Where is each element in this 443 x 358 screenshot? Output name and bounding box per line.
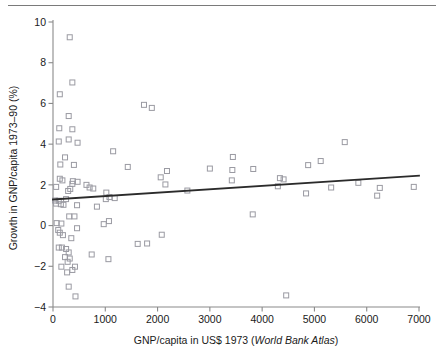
data-point-marker (149, 105, 154, 110)
data-point-marker (145, 241, 150, 246)
data-point-marker (101, 222, 106, 227)
data-point-marker (67, 35, 72, 40)
y-axis (49, 20, 54, 307)
x-axis (53, 307, 420, 312)
data-point-marker (304, 191, 309, 196)
data-point-marker (57, 92, 62, 97)
y-tick-label: 0 (40, 219, 46, 231)
data-point-marker (66, 137, 71, 142)
x-tick-label: 2000 (146, 313, 170, 325)
data-point-marker (72, 214, 77, 219)
y-tick-label: 6 (40, 97, 46, 109)
data-point-marker (57, 126, 62, 131)
data-point-marker (63, 155, 68, 160)
data-point-marker (70, 80, 75, 85)
data-point-marker (54, 184, 59, 189)
data-point-marker (229, 178, 234, 183)
data-point-marker (356, 180, 361, 185)
x-tick-label: 6000 (355, 313, 379, 325)
x-axis-title: GNP/capita in US$ 1973 (World Bank Atlas… (134, 334, 338, 346)
data-point-marker (70, 127, 75, 132)
data-point-marker (94, 204, 99, 209)
data-point-marker (230, 154, 235, 159)
x-tick-label: 0 (50, 313, 56, 325)
y-tick-label: −2 (34, 260, 46, 272)
y-tick-label: 4 (40, 138, 46, 150)
data-point-marker (106, 257, 111, 262)
data-point-marker (164, 169, 169, 174)
data-points (53, 35, 417, 299)
data-point-marker (377, 185, 382, 190)
data-point-marker (158, 175, 163, 180)
data-point-marker (106, 219, 111, 224)
data-point-marker (75, 203, 80, 208)
y-tick-labels: −4−20246810 (34, 16, 46, 313)
chart-figure: 01000200030004000500060007000 −4−2024681… (0, 0, 443, 358)
data-point-marker (66, 284, 71, 289)
data-point-marker (284, 293, 289, 298)
data-point-marker (125, 164, 130, 169)
data-point-marker (306, 163, 311, 168)
data-point-marker (230, 168, 235, 173)
data-point-marker (329, 185, 334, 190)
data-point-marker (163, 182, 168, 187)
regression-line (53, 176, 419, 200)
data-point-marker (342, 140, 347, 145)
data-point-marker (89, 252, 94, 257)
data-point-marker (56, 245, 61, 250)
data-point-marker (159, 232, 164, 237)
data-point-marker (207, 166, 212, 171)
data-point-marker (375, 193, 380, 198)
data-point-marker (251, 166, 256, 171)
data-point-marker (73, 294, 78, 299)
x-tick-label: 3000 (198, 313, 222, 325)
data-point-marker (59, 264, 64, 269)
data-point-marker (75, 226, 80, 231)
y-tick-label: 10 (34, 16, 46, 28)
data-point-marker (411, 184, 416, 189)
data-point-marker (67, 214, 72, 219)
y-tick-label: 8 (40, 56, 46, 68)
data-point-marker (318, 159, 323, 164)
data-point-marker (69, 236, 74, 241)
data-point-marker (75, 140, 80, 145)
x-tick-labels: 01000200030004000500060007000 (50, 313, 431, 325)
y-tick-label: −4 (34, 301, 46, 313)
data-point-marker (71, 162, 76, 167)
y-tick-label: 2 (40, 179, 46, 191)
scatter-plot-canvas: 01000200030004000500060007000 −4−2024681… (0, 0, 443, 358)
data-point-marker (141, 102, 146, 107)
data-point-marker (135, 241, 140, 246)
x-tick-label: 1000 (94, 313, 118, 325)
x-tick-label: 7000 (407, 313, 431, 325)
data-point-marker (58, 162, 63, 167)
x-tick-label: 4000 (250, 313, 274, 325)
data-point-marker (250, 212, 255, 217)
trend-line (53, 176, 419, 200)
y-axis-title: Growth in GNP/capita 1973–90 (%) (7, 86, 19, 251)
data-point-marker (65, 270, 70, 275)
data-point-marker (66, 114, 71, 119)
x-tick-label: 5000 (303, 313, 327, 325)
data-point-marker (111, 149, 116, 154)
data-point-marker (56, 139, 61, 144)
